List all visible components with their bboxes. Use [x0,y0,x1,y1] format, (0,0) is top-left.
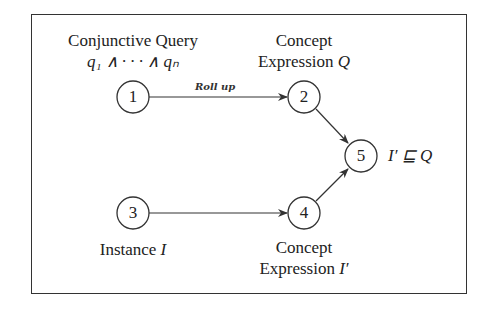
node-2-caption-sub: Expression Q [244,52,364,72]
node-5-caption: I′ ⊑ Q [388,146,448,166]
node-3-caption: Instance I [73,240,193,260]
node-1-label: 1 [117,87,149,107]
node-5-label: 5 [345,146,377,166]
edge-4-to-5 [316,169,348,201]
node-4-caption-symbol: I′ [339,259,348,278]
node-2-caption-expression: Expression [258,52,334,71]
node-4-caption-title: Concept [244,238,364,258]
node-2-label: 2 [288,87,320,107]
edge-label-roll-up: Roll up [195,81,235,92]
node-2-caption-symbol: Q [338,52,350,71]
node-4-caption-sub: Expression I′ [244,259,364,279]
node-3-caption-title: Instance [100,240,157,259]
node-1-caption-title: Conjunctive Query [43,31,223,51]
node-4-label: 4 [288,203,320,223]
node-3-label: 3 [117,203,149,223]
node-2-caption-title: Concept [244,31,364,51]
node-3-caption-symbol: I [161,240,167,259]
edge-2-to-5 [316,109,348,143]
node-4-caption-expression: Expression [259,259,335,278]
node-1-caption-formula: q₁ ∧ · · · ∧ qₙ [43,52,223,72]
